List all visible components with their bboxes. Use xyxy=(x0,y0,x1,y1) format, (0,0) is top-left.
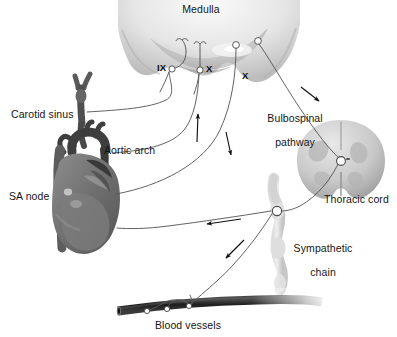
label-sympathetic-chain: Sympathetic chain xyxy=(280,230,354,290)
label-bulbospinal-pathway: Bulbospinal pathway xyxy=(250,100,328,160)
medulla-left-fiber xyxy=(160,72,169,92)
label-thoracic-cord: Thoracic cord xyxy=(324,193,389,205)
nerve-tag-vagus-right: X xyxy=(242,70,248,81)
sympathetic-cardiac-path xyxy=(117,211,271,229)
label-blood-vessels: Blood vessels xyxy=(142,319,234,331)
label-bulbospinal-line1: Bulbospinal xyxy=(267,112,322,124)
carotid-afferent-path xyxy=(87,72,172,112)
label-bulbospinal-line2: pathway xyxy=(275,136,315,148)
thoracic-cord-synapse xyxy=(337,157,346,166)
nerve-tag-vagus-left: X xyxy=(206,63,212,74)
nerve-tag-glossopharyngeal: IX xyxy=(157,62,166,73)
sympathetic-ganglion-synapse xyxy=(272,206,281,215)
aortic-afferent-path xyxy=(113,74,199,153)
label-sympathetic-line2: chain xyxy=(310,266,336,278)
figure-canvas: Medulla Carotid sinus Aortic arch SA nod… xyxy=(0,0,397,337)
heart-structure xyxy=(52,122,120,254)
arrow-afferent-up xyxy=(197,114,198,142)
arrow-bulbospinal xyxy=(301,87,319,101)
label-carotid-sinus: Carotid sinus xyxy=(11,108,74,120)
arrow-efferent-down xyxy=(226,132,231,155)
label-medulla: Medulla xyxy=(171,3,231,15)
label-sa-node: SA node xyxy=(9,190,49,202)
label-sympathetic-line1: Sympathetic xyxy=(294,242,353,254)
label-aortic-arch: Aortic arch xyxy=(104,144,155,156)
